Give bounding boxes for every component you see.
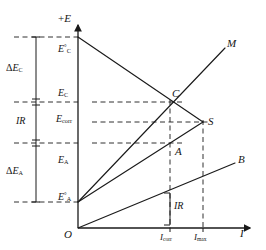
- ohmic-curve-to-B: [78, 163, 235, 228]
- ir-bracket-path: [164, 193, 170, 225]
- evans-diagram-figure: +E I O E°C EC Ecorr EA E°A Icorr Imax ΔE…: [0, 0, 266, 250]
- inner-ir-label: IR: [174, 201, 183, 211]
- origin-label: O: [64, 229, 72, 240]
- x-axis-label: I: [240, 228, 244, 239]
- point-label-C: C: [172, 88, 179, 99]
- polarization-curves: [78, 37, 235, 228]
- current-label-I-max: Imax: [194, 233, 207, 243]
- dashed-potential-lines: [14, 37, 208, 202]
- curve-endpoint-label-B: B: [238, 154, 245, 165]
- potential-label-E-A: EA: [58, 155, 69, 166]
- bracket-label-delta-E-C: ΔEC: [6, 63, 23, 74]
- y-axis-label: +E: [58, 13, 71, 24]
- bracket-spine: [32, 37, 40, 202]
- anodic-curve-A-to-S: [78, 122, 203, 202]
- potential-label-E-A-std: E°A: [58, 192, 71, 203]
- bracket-label-delta-E-A: ΔEA: [6, 166, 23, 177]
- ir-drop-bracket: [164, 193, 170, 225]
- potential-label-E-C: EC: [58, 88, 68, 99]
- potential-label-E-corr: Ecorr: [56, 114, 72, 125]
- cathodic-curve-C-to-S: [78, 37, 203, 122]
- curve-endpoint-label-S: S: [208, 116, 214, 127]
- curve-endpoint-label-M: M: [227, 38, 236, 49]
- current-label-I-corr: Icorr: [160, 233, 172, 243]
- bracket-label-IR: IR: [16, 116, 25, 126]
- axes: [78, 25, 250, 228]
- potential-label-E-C-std: E°C: [58, 44, 71, 55]
- point-label-A: A: [175, 146, 182, 157]
